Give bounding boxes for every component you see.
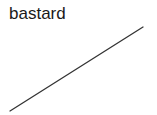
canvas: bastard [0,0,157,115]
diagonal-line [0,0,157,115]
line-segment [10,27,143,111]
